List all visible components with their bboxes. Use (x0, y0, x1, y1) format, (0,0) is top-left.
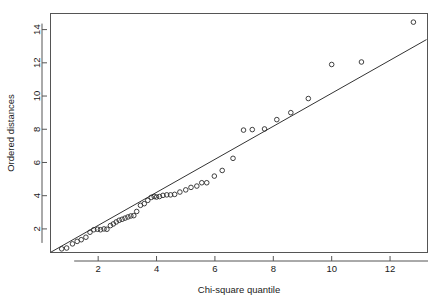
y-tick-label: 10 (32, 91, 43, 102)
y-tick-label: 4 (32, 193, 43, 198)
qq-plot: 24681012 2468101214 Chi-square quantile … (0, 0, 438, 308)
y-tick-label: 6 (32, 160, 43, 165)
plot-background (0, 0, 438, 308)
chart-screenshot: 24681012 2468101214 Chi-square quantile … (0, 0, 438, 308)
x-axis-title: Chi-square quantile (198, 284, 280, 295)
x-tick-label: 6 (212, 263, 217, 274)
y-tick-label: 2 (32, 226, 43, 231)
y-tick-label: 8 (32, 127, 43, 132)
x-tick-label: 2 (96, 263, 101, 274)
y-axis-title: Ordered distances (5, 94, 16, 172)
y-tick-label: 12 (32, 58, 43, 69)
x-tick-label: 10 (326, 263, 337, 274)
x-tick-label: 8 (271, 263, 276, 274)
x-tick-label: 12 (385, 263, 396, 274)
y-tick-label: 14 (32, 24, 43, 35)
x-tick-label: 4 (154, 263, 159, 274)
